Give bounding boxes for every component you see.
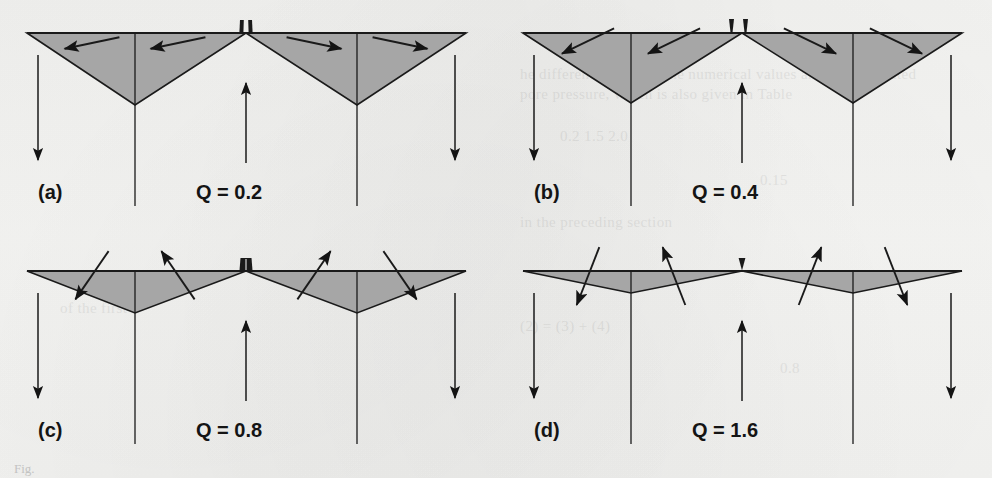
subsidence-cone-right [246,271,466,313]
nozzle-left [729,19,734,33]
panel-label-c: (c) [38,419,62,441]
subsidence-cone-left [27,33,246,105]
source-nozzle-small-triangle [739,258,746,271]
panel-label-a: (a) [38,181,62,203]
panel-b: (b)Q = 0.4 [523,19,962,206]
four-panel-diagram: (a)Q = 0.2(b)Q = 0.4(c)Q = 0.8(d)Q = 1.6 [0,0,992,478]
panel-label-d: (d) [534,419,560,441]
source-nozzle-double-prong [239,20,252,33]
panel-c: (c)Q = 0.8 [27,251,466,444]
nozzle-prong-right [248,20,252,33]
panel-d: (d)Q = 1.6 [523,247,962,444]
nozzle-triangle [739,258,746,271]
nozzle-right [743,19,748,33]
subsidence-cone-left [523,271,742,293]
q-value-label-c: Q = 0.8 [196,419,262,441]
panel-a: (a)Q = 0.2 [27,20,466,206]
nozzle-prong-left [239,20,243,33]
subsidence-cone-left [27,271,246,313]
subsidence-cone-right [742,271,962,293]
figure-container: he difference between the numerical valu… [0,0,992,478]
subsidence-cone-left [523,33,742,103]
q-value-label-b: Q = 0.4 [692,181,759,203]
subsidence-cone-right [246,33,466,105]
source-nozzle-single-stub [240,258,253,271]
caption-stub: Fig. [14,461,35,477]
q-value-label-d: Q = 1.6 [692,419,758,441]
panel-label-b: (b) [534,181,560,203]
subsidence-cone-right [742,33,962,103]
source-nozzle-twin-separated [729,19,748,33]
q-value-label-a: Q = 0.2 [196,181,262,203]
